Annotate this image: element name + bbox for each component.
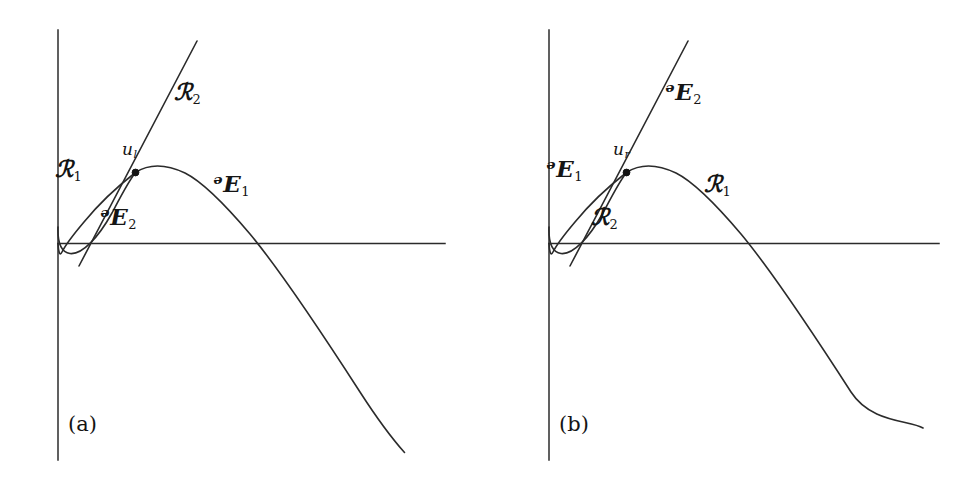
state-point-marker xyxy=(132,169,139,176)
label-subscript: 1 xyxy=(723,184,731,199)
wave-curve-figure: ℛ2 ℛ1 ᵊE1 ᵊE2 ul (a) xyxy=(0,0,979,479)
panel-b: ᵊE2 ᵊE1 ℛ1 ℛ2 ur (b) xyxy=(489,0,979,479)
label-glyph: ℛ xyxy=(704,170,722,197)
label-subscript: 1 xyxy=(241,184,249,199)
label-glyph: ℛ xyxy=(174,78,192,105)
label-subscript: 2 xyxy=(693,92,701,107)
label-curve-r2: ℛ2 xyxy=(591,205,618,231)
label-subscript: 1 xyxy=(574,169,582,184)
label-state-point: ur xyxy=(613,141,630,160)
label-subscript: 1 xyxy=(74,169,82,184)
panel-caption: (a) xyxy=(68,412,97,436)
label-curve-s1: ᵊE1 xyxy=(213,172,250,198)
label-curve-r2: ℛ2 xyxy=(174,80,201,106)
panel-a: ℛ2 ℛ1 ᵊE1 ᵊE2 ul (a) xyxy=(0,0,490,479)
state-point-marker xyxy=(623,169,630,176)
label-glyph: ᵊE xyxy=(665,78,693,105)
label-curve-s2: ᵊE2 xyxy=(665,80,702,106)
label-subscript: 2 xyxy=(193,92,201,107)
label-glyph: ᵊE xyxy=(546,155,574,182)
label-curve-s1: ᵊE1 xyxy=(546,157,583,183)
label-glyph: ᵊE xyxy=(213,170,241,197)
state-subscript: l xyxy=(133,148,137,161)
label-subscript: 2 xyxy=(610,217,618,232)
straight-wave-line xyxy=(79,41,197,266)
label-curve-s2: ᵊE2 xyxy=(100,205,137,231)
label-curve-r1: ℛ1 xyxy=(704,172,731,198)
label-subscript: 2 xyxy=(128,217,136,232)
label-glyph: ℛ xyxy=(591,203,609,230)
label-glyph: ℛ xyxy=(55,155,73,182)
state-subscript: r xyxy=(624,148,629,161)
state-symbol: u xyxy=(613,139,624,159)
label-curve-r1: ℛ1 xyxy=(55,157,82,183)
panel-a-drawing xyxy=(0,0,490,479)
label-glyph: ᵊE xyxy=(100,203,128,230)
state-symbol: u xyxy=(122,139,133,159)
panel-b-drawing xyxy=(489,0,979,479)
panel-caption: (b) xyxy=(559,412,589,436)
label-state-point: ul xyxy=(122,141,137,160)
